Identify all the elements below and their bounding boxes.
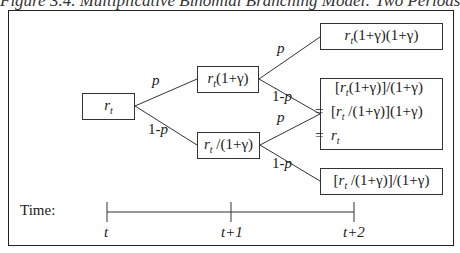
node-up-up: rt(1+γ)(1+γ) [320, 23, 443, 50]
edge-label-root-up: p [152, 72, 160, 89]
timeline-label: Time: [20, 202, 55, 219]
timeline-tick-t1: t+1 [221, 224, 243, 241]
node-root-label: rt [104, 97, 113, 116]
node-down-down: [rt /(1+γ)]/(1+γ) [320, 168, 443, 195]
node-up-up-label: rt(1+γ)(1+γ) [345, 27, 419, 46]
timeline-tick-t2: t+2 [343, 224, 365, 241]
node-up-label: rt(1+γ) [207, 70, 248, 89]
node-middle-line1: [rt(1+γ)]/(1+γ) [335, 78, 423, 102]
node-down-label: rt /(1+γ) [204, 136, 253, 155]
edge-label-root-down: 1-p [148, 121, 168, 138]
node-down: rt /(1+γ) [197, 132, 260, 159]
edge-p: p [161, 121, 169, 137]
timeline-tick-t: t [104, 224, 108, 241]
node-middle-line2: = [rt /(1+γ)](1+γ) [315, 102, 423, 126]
edge-p: p [285, 155, 293, 171]
node-down-down-label: [rt /(1+γ)]/(1+γ) [334, 172, 430, 191]
edge-label-down-up: p [277, 109, 285, 126]
node-middle-line3: = rt [315, 126, 340, 150]
node-middle: [rt(1+γ)]/(1+γ) = [rt /(1+γ)](1+γ) = rt [320, 78, 443, 150]
edge-label-up-up: p [277, 40, 285, 57]
node-root: rt [82, 93, 135, 120]
edge-label-up-down: 1-p [272, 88, 292, 105]
node-up: rt(1+γ) [197, 66, 259, 93]
edge-p: p [285, 88, 293, 104]
edge-label-down-down: 1-p [272, 155, 292, 172]
